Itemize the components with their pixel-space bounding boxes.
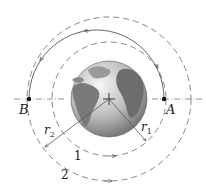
point-b-marker — [27, 97, 31, 101]
orbit-2-label: 2 — [61, 169, 69, 181]
outer-arc-arrow-icon — [40, 58, 42, 61]
transfer-arrow-icon — [84, 31, 90, 32]
r1-subscript: 1 — [147, 127, 152, 136]
r2-subscript: 2 — [50, 130, 55, 139]
point-a-label: A — [166, 103, 175, 116]
orbit-diagram — [0, 0, 206, 193]
r1-label: r1 — [141, 121, 152, 136]
point-a-marker — [162, 97, 166, 101]
orbit-1-label: 1 — [74, 150, 82, 162]
r2-label: r2 — [44, 124, 55, 139]
point-b-label: B — [19, 103, 29, 116]
